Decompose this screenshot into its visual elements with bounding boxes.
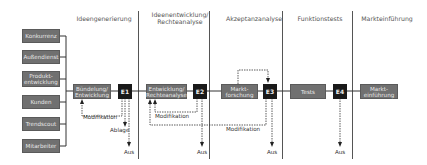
- step-tests: Tests: [290, 84, 326, 99]
- gate-e3: E3: [263, 84, 277, 99]
- source-label: Außendienst: [23, 54, 58, 60]
- gate-label: E4: [336, 88, 344, 95]
- label-aus-e2: Aus: [197, 149, 207, 155]
- step-entwicklung-rechteanalyse: Entwicklung/ Rechteanalyse: [146, 84, 187, 99]
- step-label: Rechteanalyse: [146, 92, 187, 98]
- connector-lines: [0, 0, 427, 165]
- gate-e2: E2: [193, 84, 207, 99]
- label-modifikation-e1: Modifikation: [83, 114, 117, 120]
- source-trendscout: Trendscout: [22, 117, 60, 131]
- label-ablage: Ablage: [110, 127, 129, 133]
- source-produktentwicklung: Produkt- entwicklung: [22, 71, 60, 87]
- source-aussendienst: Außendienst: [22, 50, 60, 64]
- step-buendelung-entwicklung: Bündelung/ Entwicklung: [73, 84, 111, 99]
- gate-label: E1: [121, 88, 129, 95]
- step-label: Tests: [301, 89, 315, 95]
- step-marktforschung: Markt- forschung: [221, 84, 258, 99]
- gate-e1: E1: [118, 84, 132, 99]
- source-mitarbeiter: Mitarbeiter: [22, 139, 60, 153]
- source-kunden: Kunden: [22, 95, 60, 109]
- step-label: Entwicklung: [75, 92, 109, 98]
- gate-label: E3: [266, 88, 274, 95]
- step-label: einführung: [364, 92, 395, 98]
- step-label: forschung: [226, 92, 254, 98]
- source-konkurrenz: Konkurrenz: [22, 29, 60, 43]
- gate-label: E2: [196, 88, 204, 95]
- label-aus-e3: Aus: [267, 149, 277, 155]
- label-aus-e4: Aus: [335, 149, 345, 155]
- gate-e4: E4: [333, 84, 347, 99]
- source-label: Trendscout: [26, 121, 56, 127]
- source-label: entwicklung: [24, 79, 58, 85]
- source-label: Kunden: [30, 99, 51, 105]
- label-aus-e1: Aus: [124, 149, 134, 155]
- step-markteinfuehrung: Markt- einführung: [360, 84, 398, 99]
- label-modifikation-e2: Modifikation: [155, 113, 189, 119]
- source-label: Mitarbeiter: [26, 143, 57, 149]
- source-label: Konkurrenz: [25, 33, 56, 39]
- label-modifikation-e3: Modifikation: [226, 126, 260, 132]
